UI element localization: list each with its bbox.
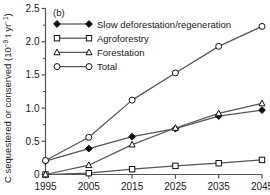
- data-point-open-square: [86, 36, 91, 41]
- marker-open-square: [129, 166, 134, 171]
- data-point-open-circle: [129, 97, 135, 103]
- y-tick-label: 1.0: [26, 103, 40, 114]
- marker-open-circle: [259, 23, 265, 29]
- marker-open-square: [86, 36, 91, 41]
- svg-text:C sequestered or conserved (10: C sequestered or conserved (10−9 t yr−1): [2, 13, 14, 183]
- y-tick-label: 1.5: [26, 69, 40, 80]
- y-tick-label: 2.5: [26, 3, 40, 14]
- marker-open-circle: [172, 70, 178, 76]
- marker-open-circle: [86, 64, 92, 70]
- marker-open-circle: [54, 64, 60, 70]
- marker-open-square: [54, 36, 59, 41]
- x-tick-label: 2045: [251, 181, 270, 192]
- legend-label: Total: [97, 61, 117, 72]
- data-point-open-square: [216, 161, 221, 166]
- marker-open-square: [216, 161, 221, 166]
- data-point-open-square: [259, 157, 264, 162]
- marker-open-circle: [216, 43, 222, 49]
- y-axis-title-mid: t yr: [2, 24, 13, 40]
- chart-figure: C sequestered or conserved (10−9 t yr−1)…: [0, 0, 270, 195]
- y-axis-title: C sequestered or conserved (10−9 t yr−1): [2, 13, 14, 183]
- marker-open-circle: [43, 158, 49, 164]
- data-point-open-square: [86, 170, 91, 175]
- data-point-open-circle: [259, 23, 265, 29]
- data-point-open-circle: [43, 158, 49, 164]
- legend-label: Agroforestry: [97, 33, 149, 44]
- data-point-open-circle: [54, 64, 60, 70]
- legend-label: Slow deforestation/regeneration: [97, 19, 231, 30]
- x-tick-label: 2035: [208, 181, 231, 192]
- x-tick-label: 2005: [78, 181, 101, 192]
- data-point-open-circle: [86, 64, 92, 70]
- marker-open-square: [173, 163, 178, 168]
- y-axis-title-main: C sequestered or conserved (10: [2, 47, 13, 183]
- data-point-open-square: [129, 166, 134, 171]
- marker-open-circle: [129, 97, 135, 103]
- marker-open-square: [259, 157, 264, 162]
- y-tick-label: 0: [34, 169, 40, 180]
- legend-label: Forestation: [97, 47, 145, 58]
- data-point-open-square: [54, 36, 59, 41]
- x-tick-label: 1995: [34, 181, 57, 192]
- line-chart: C sequestered or conserved (10−9 t yr−1)…: [0, 0, 270, 195]
- panel-label: (b): [53, 7, 65, 18]
- x-tick-label: 2025: [164, 181, 187, 192]
- marker-open-square: [86, 170, 91, 175]
- y-axis-title-end: ): [2, 13, 13, 16]
- x-tick-label: 2015: [121, 181, 144, 192]
- data-point-open-circle: [86, 134, 92, 140]
- data-point-open-circle: [216, 43, 222, 49]
- y-tick-label: 0.5: [26, 136, 40, 147]
- data-point-open-circle: [172, 70, 178, 76]
- y-tick-label: 2.0: [26, 36, 40, 47]
- data-point-open-square: [173, 163, 178, 168]
- marker-open-circle: [86, 134, 92, 140]
